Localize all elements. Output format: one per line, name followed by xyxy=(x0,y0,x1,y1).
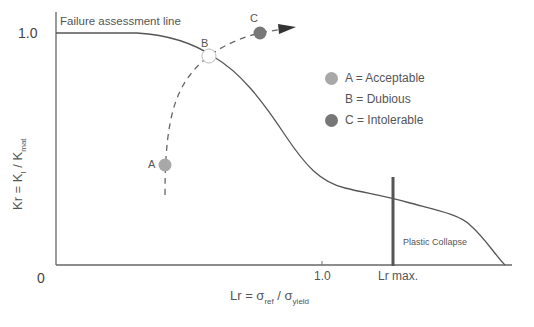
y-axis-label-main: Kr = K xyxy=(10,174,25,211)
point-c-label: C xyxy=(250,12,258,24)
legend-dot-a-icon xyxy=(325,72,338,85)
y-axis-label: Kr = KI / Kmat xyxy=(10,138,28,210)
legend-label-a: A = Acceptable xyxy=(345,71,425,85)
curve-label: Failure assessment line xyxy=(60,15,181,27)
y-axis-label-mid: / K xyxy=(10,152,25,172)
legend-item-a: A = Acceptable xyxy=(325,71,425,85)
point-b xyxy=(202,49,216,63)
point-a-label: A xyxy=(148,158,155,170)
point-b-label: B xyxy=(201,37,208,49)
x-tick-1-label: 1.0 xyxy=(314,269,331,283)
x-axis-label-sub-yield: yield xyxy=(293,297,309,306)
x-axis-label-mid: / σ xyxy=(274,288,293,303)
y-axis-label-sub-mat: mat xyxy=(19,138,28,151)
point-a xyxy=(159,159,172,172)
plastic-collapse-label: Plastic Collapse xyxy=(403,237,467,247)
legend-item-b: B = Dubious xyxy=(325,92,411,106)
load-path-dashed xyxy=(165,29,282,195)
point-c xyxy=(254,27,267,40)
y-axis-label-sub-i: I xyxy=(19,171,28,173)
x-axis-label: Lr = σref / σyield xyxy=(230,288,309,306)
legend-dot-c-icon xyxy=(325,114,338,127)
x-tick-lrmax-label: Lr max. xyxy=(378,269,418,283)
x-axis-label-sub-ref: ref xyxy=(264,297,273,306)
y-tick-1: 1.0 xyxy=(18,25,37,41)
chart-canvas xyxy=(0,0,534,327)
legend-label-c: C = Intolerable xyxy=(345,113,423,127)
legend-dot-b-icon xyxy=(325,93,338,106)
x-axis-label-main: Lr = σ xyxy=(230,288,264,303)
arrow-head-icon xyxy=(278,24,296,34)
y-tick-0: 0 xyxy=(37,270,45,286)
failure-assessment-curve xyxy=(56,33,505,265)
legend-item-c: C = Intolerable xyxy=(325,113,423,127)
legend-label-b: B = Dubious xyxy=(345,92,411,106)
